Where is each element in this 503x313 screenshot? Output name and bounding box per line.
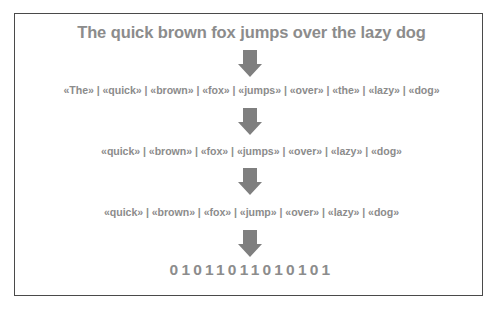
down-arrow-icon: [238, 168, 262, 195]
down-arrow-icon: [238, 50, 262, 77]
source-sentence: The quick brown fox jumps over the lazy …: [0, 23, 503, 42]
binary-vector: 01011011010101: [0, 261, 503, 279]
tokenized-words: «The» | «quick» | «brown» | «fox» | «jum…: [0, 84, 503, 96]
stopwords-removed: «quick» | «brown» | «fox» | «jumps» | «o…: [0, 145, 503, 157]
stemmed-words: «quick» | «brown» | «fox» | «jump» | «ov…: [0, 206, 503, 218]
down-arrow-icon: [238, 230, 262, 257]
down-arrow-icon: [238, 108, 262, 135]
